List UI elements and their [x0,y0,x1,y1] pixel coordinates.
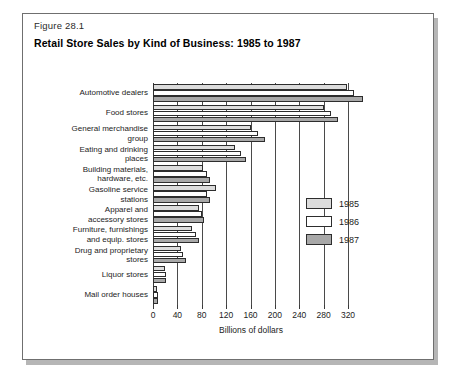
category-label: Mail order houses [44,290,148,300]
category-label: General merchandisegroup [44,124,148,143]
legend-label-1986: 1986 [339,217,359,227]
category-label: Furniture, furnishingsand equip. stores [44,225,148,244]
category-axis-labels: Automotive dealersFood storesGeneral mer… [44,0,148,383]
legend-label-1987: 1987 [339,235,359,245]
category-label: Building materials,hardware, etc. [44,164,148,183]
category-label: Eating and drinkingplaces [44,144,148,163]
category-label: Food stores [44,109,148,119]
category-label: Gasoline servicestations [44,185,148,204]
category-label: Apparel andaccessory stores [44,205,148,224]
category-label: Drug and proprietarystores [44,245,148,264]
legend-swatch-1985 [306,198,332,209]
chart-legend: 198519861987 [306,196,359,250]
legend-swatch-1987 [306,234,332,245]
category-label: Liquor stores [44,270,148,280]
category-label: Automotive dealers [44,88,148,98]
legend-swatch-1986 [306,216,332,227]
legend-item-1985: 1985 [306,196,359,211]
legend-item-1987: 1987 [306,232,359,247]
legend-item-1986: 1986 [306,214,359,229]
legend-label-1985: 1985 [339,199,359,209]
